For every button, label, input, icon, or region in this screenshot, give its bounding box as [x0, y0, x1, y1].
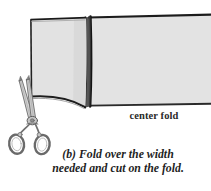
figure-caption: (b) Fold over the width needed and cut o…: [28, 147, 208, 175]
main-sheet-face: [88, 15, 211, 106]
scissors-pivot-screw: [30, 119, 34, 122]
scissors-tip-right: [26, 76, 29, 80]
folded-flap: [31, 18, 87, 109]
scissors-knob-left: [18, 133, 22, 137]
figure-illustration: center fold (b) Fold over the width need…: [0, 0, 211, 191]
scissors-handle-left-inner: [11, 137, 22, 152]
caption-line-2: needed and cut on the fold.: [28, 161, 208, 175]
scissors-tip-left: [19, 77, 22, 81]
flap-shading: [73, 18, 86, 107]
caption-line-1: (b) Fold over the width: [28, 147, 208, 161]
center-fold-label: center fold: [122, 110, 186, 122]
flap-left-edge: [31, 19, 32, 97]
scissors-knob-right: [37, 133, 41, 137]
main-sheet: [88, 15, 211, 106]
